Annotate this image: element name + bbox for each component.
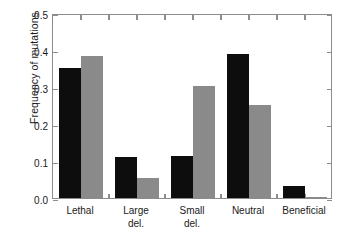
y-tick-mark-left [53, 52, 58, 53]
bar [193, 86, 215, 198]
x-tick-mark-top [164, 15, 165, 20]
x-tick-mark-bottom [220, 194, 221, 199]
plot-area: 0.00.10.20.30.40.5 [52, 14, 332, 199]
y-tick-mark-right [327, 163, 332, 164]
y-tick-mark-left [53, 15, 58, 16]
bar [171, 156, 193, 198]
y-tick-mark-right [327, 126, 332, 127]
bar [305, 197, 327, 198]
x-axis-category-label: Neutral [232, 204, 264, 217]
y-tick-label: 0.0 [34, 195, 48, 206]
y-tick-mark-left [53, 163, 58, 164]
bar [59, 68, 81, 198]
x-axis-label-line: Lethal [66, 205, 93, 216]
y-tick-mark-left [53, 200, 58, 201]
bar-chart-figure: Frequency of mutations 0.00.10.20.30.40.… [0, 0, 349, 246]
y-tick-label: 0.1 [34, 158, 48, 169]
x-axis-label-line: Small [179, 205, 204, 216]
x-tick-mark-top [192, 15, 193, 20]
y-tick-label: 0.4 [34, 47, 48, 58]
y-tick-mark-left [53, 89, 58, 90]
x-axis-label-line: Beneficial [282, 205, 325, 216]
bar [249, 105, 271, 198]
x-axis-category-label: Smalldel. [179, 204, 204, 230]
x-tick-mark-top [248, 15, 249, 20]
x-tick-mark-top [220, 15, 221, 20]
x-tick-mark-bottom [164, 194, 165, 199]
y-tick-mark-right [327, 200, 332, 201]
y-tick-label: 0.5 [34, 10, 48, 21]
y-tick-label: 0.3 [34, 84, 48, 95]
bar [283, 186, 305, 198]
y-tick-mark-left [53, 126, 58, 127]
bar [81, 56, 103, 198]
x-tick-mark-top [276, 15, 277, 20]
x-tick-mark-top [80, 15, 81, 20]
x-axis-label-line: Neutral [232, 205, 264, 216]
x-axis-category-label: Largedel. [123, 204, 149, 230]
x-tick-mark-top [136, 15, 137, 20]
x-tick-mark-top [304, 15, 305, 20]
y-tick-mark-right [327, 89, 332, 90]
x-tick-mark-top [108, 15, 109, 20]
x-axis-category-label: Beneficial [282, 204, 325, 217]
x-axis-label-line: del. [179, 217, 204, 230]
x-axis-category-label: Lethal [66, 204, 93, 217]
x-tick-mark-bottom [276, 194, 277, 199]
x-tick-mark-bottom [108, 194, 109, 199]
bar [115, 157, 137, 198]
x-axis-label-line: Large [123, 205, 149, 216]
bar [137, 178, 159, 198]
y-tick-mark-right [327, 52, 332, 53]
y-tick-mark-right [327, 15, 332, 16]
bar [227, 54, 249, 198]
y-tick-label: 0.2 [34, 121, 48, 132]
x-axis-label-line: del. [123, 217, 149, 230]
